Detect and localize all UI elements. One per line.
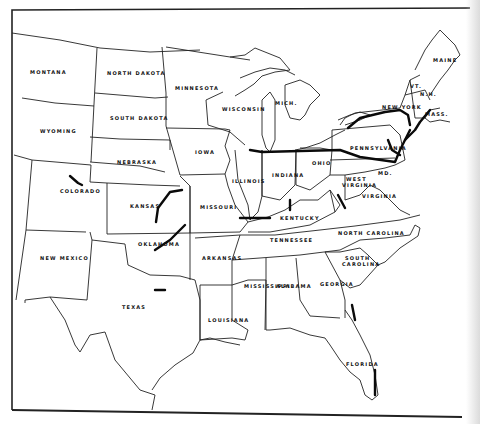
label-wyoming: WYOMING xyxy=(40,128,77,134)
label-vermont: VT. xyxy=(410,83,422,89)
route-kansas xyxy=(158,190,182,208)
label-florida: FLORIDA xyxy=(346,361,379,367)
state-boundaries xyxy=(12,30,460,410)
label-virginia: VIRGINIA xyxy=(362,193,397,199)
label-arkansas: ARKANSAS xyxy=(202,255,242,261)
label-south-carolina-2: CAROLINA xyxy=(342,261,380,267)
route-georgia-coast xyxy=(352,305,355,320)
label-michigan: MICH. xyxy=(275,100,298,106)
label-north-carolina: NORTH CAROLINA xyxy=(338,230,405,236)
label-kentucky: KENTUCKY xyxy=(280,215,320,221)
railroad-routes xyxy=(70,110,430,395)
label-west-virginia-2: VIRGINIA xyxy=(342,182,377,188)
label-iowa: IOWA xyxy=(195,149,215,155)
label-tennessee: TENNESSEE xyxy=(270,237,313,243)
label-missouri: MISSOURI xyxy=(200,204,237,210)
label-louisiana: LOUISIANA xyxy=(208,317,249,323)
label-new-hampshire: N.H. xyxy=(420,91,437,97)
label-maryland: MD. xyxy=(378,170,393,176)
label-north-dakota: NORTH DAKOTA xyxy=(107,70,166,76)
label-wisconsin: WISCONSIN xyxy=(222,106,266,112)
label-indiana: INDIANA xyxy=(272,172,304,178)
label-ohio: OHIO xyxy=(312,160,331,166)
label-montana: MONTANA xyxy=(30,69,67,75)
label-kansas: KANSAS xyxy=(130,203,160,209)
route-kansas-south xyxy=(156,208,158,222)
us-railroad-map: MONTANA NORTH DAKOTA SOUTH DAKOTA WYOMIN… xyxy=(0,0,480,424)
label-oklahoma: OKLAHOMA xyxy=(138,241,180,247)
label-new-york: NEW YORK xyxy=(382,104,422,110)
label-colorado: COLORADO xyxy=(60,188,101,194)
label-massachusetts: MASS. xyxy=(425,111,449,117)
label-nebraska: NEBRASKA xyxy=(117,159,157,165)
label-illinois: ILLINOIS xyxy=(232,178,266,184)
label-alabama: ALABAMA xyxy=(276,283,312,289)
label-texas: TEXAS xyxy=(122,304,146,310)
label-new-mexico: NEW MEXICO xyxy=(40,255,89,261)
scan-edge-shadow xyxy=(466,0,480,424)
label-georgia: GEORGIA xyxy=(320,281,354,287)
label-south-dakota: SOUTH DAKOTA xyxy=(110,115,168,121)
label-minnesota: MINNESOTA xyxy=(175,85,219,91)
route-colorado xyxy=(70,176,82,185)
label-maine: MAINE xyxy=(433,57,457,63)
label-pennsylvania: PENNSYLVANIA xyxy=(350,145,407,151)
